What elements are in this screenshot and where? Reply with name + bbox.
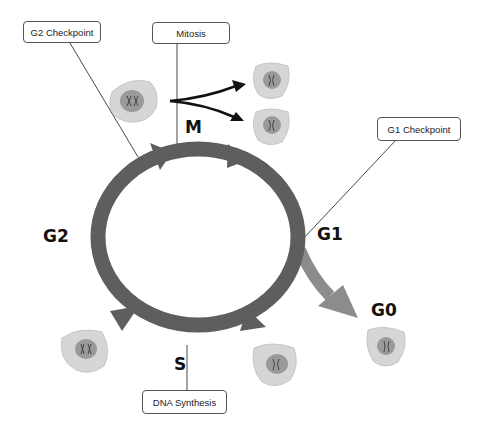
g0-arrow-shaft [300,250,330,296]
g2-checkpoint-callout: G2 Checkpoint [23,21,101,43]
cell-g0-icon [367,327,405,366]
phase-label-g1: G1 [317,224,343,244]
g1-checkpoint-callout: G1 Checkpoint [377,117,461,141]
daughter-cell-upper-icon [253,63,289,99]
cell-cycle-diagram: G2 Checkpoint Mitosis G1 Checkpoint DNA … [0,0,485,438]
cell-g2-icon [61,330,107,372]
cell-g1-icon [253,344,296,386]
diagram-canvas [0,0,485,438]
division-arrow-lower [170,101,234,117]
division-arrow-upper [170,86,236,101]
ring-arrowhead-bottom-left-icon [110,306,139,331]
mitosis-callout: Mitosis [152,22,230,44]
division-arrowhead-upper-icon [232,80,246,92]
phase-label-m: M [185,117,202,137]
phase-label-g0: G0 [371,300,397,320]
phase-label-g2: G2 [43,226,69,246]
phase-label-s: S [174,354,186,374]
cell-prophase-icon [110,80,157,122]
daughter-cell-lower-icon [253,109,289,145]
cell-cycle-ring [98,149,298,325]
dna-synthesis-callout: DNA Synthesis [142,390,227,414]
